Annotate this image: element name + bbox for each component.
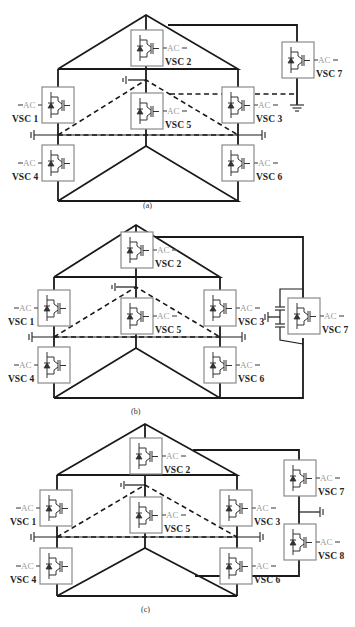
converter-vsc4: ACVSC 4 bbox=[8, 347, 70, 384]
converter-label: VSC 6 bbox=[254, 575, 280, 585]
ac-label: AC bbox=[258, 100, 271, 110]
converter-label: VSC 2 bbox=[165, 57, 191, 67]
ac-terminal: AC bbox=[252, 503, 276, 513]
ground-icon bbox=[260, 532, 263, 542]
ground-icon bbox=[262, 130, 265, 140]
ac-terminal: AC bbox=[153, 245, 177, 255]
ac-label: AC bbox=[256, 561, 269, 571]
panel-caption: (b) bbox=[131, 407, 141, 416]
converter-vsc3: ACVSC 3 bbox=[220, 490, 280, 527]
converter-label: VSC 7 bbox=[318, 487, 344, 497]
panel-caption: (a) bbox=[143, 201, 152, 210]
ac-terminal: AC bbox=[18, 100, 42, 110]
converter-vsc4: ACVSC 4 bbox=[10, 548, 72, 585]
converter-label: VSC 3 bbox=[238, 317, 264, 327]
ac-terminal: AC bbox=[254, 158, 278, 168]
ac-label: AC bbox=[157, 311, 170, 321]
converter-vsc5: ACVSC 5 bbox=[131, 93, 191, 130]
converter-vsc6: ACVSC 6 bbox=[204, 347, 264, 384]
lower-dc-triangle bbox=[54, 348, 220, 398]
ac-terminal: AC bbox=[16, 561, 40, 571]
ac-label: AC bbox=[23, 158, 36, 168]
lower-dc-triangle bbox=[58, 146, 238, 201]
converter-vsc7: ACVSC 7 bbox=[282, 42, 342, 79]
panel-a: ACVSC 1ACVSC 2ACVSC 3ACVSC 4ACVSC 5ACVSC… bbox=[12, 15, 342, 210]
converter-label: VSC 7 bbox=[316, 69, 342, 79]
ac-terminal: AC bbox=[14, 303, 38, 313]
converter-vsc5: ACVSC 5 bbox=[130, 497, 190, 534]
ac-label: AC bbox=[166, 451, 179, 461]
ac-terminal: AC bbox=[316, 537, 340, 547]
converter-vsc5: ACVSC 5 bbox=[121, 298, 181, 335]
ac-label: AC bbox=[167, 43, 180, 53]
converter-label: VSC 1 bbox=[8, 317, 34, 327]
converter-vsc4: ACVSC 4 bbox=[12, 145, 74, 182]
converter-vsc1: ACVSC 1 bbox=[12, 87, 74, 124]
converter-label: VSC 5 bbox=[164, 524, 190, 534]
ac-label: AC bbox=[320, 473, 333, 483]
ac-label: AC bbox=[240, 303, 253, 313]
converter-vsc3: ACVSC 3 bbox=[204, 290, 264, 327]
converter-label: VSC 7 bbox=[322, 325, 348, 335]
ac-terminal: AC bbox=[236, 360, 260, 370]
ac-terminal: AC bbox=[252, 561, 276, 571]
converter-vsc6: ACVSC 6 bbox=[222, 145, 282, 182]
converter-label: VSC 1 bbox=[12, 114, 38, 124]
converter-label: VSC 6 bbox=[256, 172, 282, 182]
converter-label: VSC 4 bbox=[8, 374, 34, 384]
figure: ACVSC 1ACVSC 2ACVSC 3ACVSC 4ACVSC 5ACVSC… bbox=[0, 0, 355, 627]
ac-label: AC bbox=[19, 303, 32, 313]
ac-label: AC bbox=[256, 503, 269, 513]
converter-vsc7: ACVSC 7 bbox=[284, 460, 344, 497]
converter-vsc1: ACVSC 1 bbox=[10, 490, 72, 527]
converter-label: VSC 6 bbox=[238, 374, 264, 384]
ac-label: AC bbox=[21, 503, 34, 513]
ac-terminal: AC bbox=[314, 55, 338, 65]
converter-vsc3: ACVSC 3 bbox=[222, 87, 282, 124]
converter-label: VSC 5 bbox=[155, 325, 181, 335]
converter-label: VSC 2 bbox=[164, 465, 190, 475]
converter-vsc6: ACVSC 6 bbox=[220, 548, 280, 585]
ac-label: AC bbox=[157, 245, 170, 255]
converter-label: VSC 3 bbox=[254, 517, 280, 527]
ac-label: AC bbox=[167, 106, 180, 116]
ac-label: AC bbox=[318, 55, 331, 65]
panel-b: ACVSC 1ACVSC 2ACVSC 3ACVSC 4ACVSC 5ACVSC… bbox=[8, 225, 348, 416]
ac-terminal: AC bbox=[14, 360, 38, 370]
ac-terminal: AC bbox=[163, 43, 187, 53]
converter-label: VSC 5 bbox=[165, 120, 191, 130]
panel-c: ACVSC 1ACVSC 2ACVSC 3ACVSC 4ACVSC 5ACVSC… bbox=[10, 424, 344, 614]
ac-terminal: AC bbox=[316, 473, 340, 483]
ground-icon bbox=[29, 332, 32, 342]
ac-terminal: AC bbox=[162, 510, 186, 520]
ac-label: AC bbox=[166, 510, 179, 520]
ground-icon bbox=[121, 481, 124, 489]
ac-label: AC bbox=[324, 311, 337, 321]
ac-terminal: AC bbox=[153, 311, 177, 321]
converter-vsc7: ACVSC 7 bbox=[288, 298, 348, 335]
vsc-topology-diagram: ACVSC 1ACVSC 2ACVSC 3ACVSC 4ACVSC 5ACVSC… bbox=[0, 0, 355, 627]
ground-icon bbox=[320, 507, 323, 517]
ground-icon bbox=[290, 105, 304, 111]
ground-icon bbox=[123, 76, 126, 84]
ac-terminal: AC bbox=[236, 303, 260, 313]
converter-vsc8: ACVSC 8 bbox=[284, 524, 344, 561]
capacitor-icon bbox=[275, 324, 285, 327]
ac-terminal: AC bbox=[320, 311, 344, 321]
ac-terminal: AC bbox=[162, 451, 186, 461]
ac-terminal: AC bbox=[254, 100, 278, 110]
ac-terminal: AC bbox=[18, 158, 42, 168]
ground-icon bbox=[31, 130, 34, 140]
converter-label: VSC 1 bbox=[10, 517, 36, 527]
ac-label: AC bbox=[23, 100, 36, 110]
capacitor-icon bbox=[275, 307, 285, 310]
ac-label: AC bbox=[21, 561, 34, 571]
converter-label: VSC 2 bbox=[155, 259, 181, 269]
lower-dc-triangle bbox=[57, 548, 237, 596]
converter-vsc1: ACVSC 1 bbox=[8, 290, 70, 327]
ground-icon bbox=[31, 532, 34, 542]
ac-terminal: AC bbox=[163, 106, 187, 116]
ac-label: AC bbox=[258, 158, 271, 168]
converter-label: VSC 3 bbox=[256, 114, 282, 124]
ground-icon bbox=[112, 283, 115, 291]
